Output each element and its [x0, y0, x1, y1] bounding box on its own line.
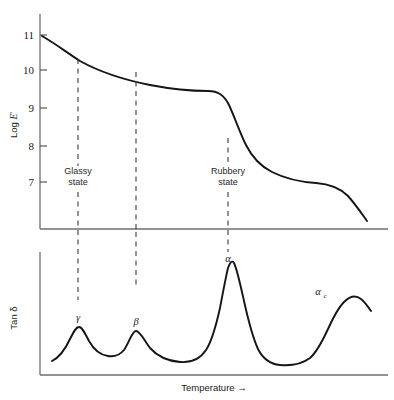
annotation-glassy-line1: Glassy	[64, 166, 92, 176]
peak-label-alpha-c-group: α c	[315, 286, 326, 300]
x-axis-title: Temperature →	[181, 382, 246, 393]
upper-y-axis-title: Log E'	[8, 112, 19, 138]
peak-label-beta: β	[132, 316, 139, 327]
transition-guides	[78, 59, 228, 300]
annotation-glassy-line2: state	[68, 177, 88, 187]
upper-tick-label-9: 9	[29, 102, 35, 114]
upper-tick-label-10: 10	[23, 64, 35, 76]
lower-panel: Tan δ γ β α α c	[8, 252, 388, 375]
peak-label-alpha-c: α	[315, 286, 321, 297]
plot-canvas: 11 10 9 8 7 Log E' Glassy state Rubbery …	[0, 0, 394, 400]
peak-label-alpha: α	[225, 253, 231, 264]
storage-modulus-curve	[42, 36, 367, 221]
loss-tangent-curve	[52, 262, 371, 366]
dma-figure: 11 10 9 8 7 Log E' Glassy state Rubbery …	[0, 0, 394, 400]
annotation-rubbery-line1: Rubbery	[211, 166, 246, 176]
upper-tick-label-7: 7	[29, 176, 35, 188]
peak-label-gamma: γ	[76, 312, 81, 323]
upper-panel: 11 10 9 8 7 Log E' Glassy state Rubbery …	[8, 14, 388, 229]
upper-tick-label-11: 11	[23, 29, 34, 41]
lower-y-axis-title: Tan δ	[8, 306, 19, 329]
annotation-rubbery-line2: state	[218, 177, 238, 187]
upper-tick-label-8: 8	[29, 140, 35, 152]
peak-label-alpha-c-subscript: c	[323, 292, 326, 300]
